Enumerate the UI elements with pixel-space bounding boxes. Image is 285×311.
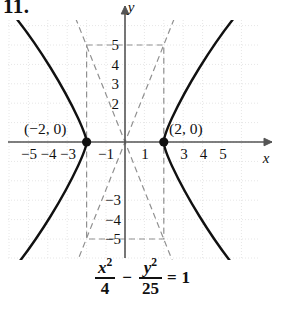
y-exponent: 2 bbox=[151, 256, 157, 269]
y-tick-label: −4 bbox=[105, 212, 121, 228]
y-term-denominator: 25 bbox=[139, 279, 162, 297]
right-vertex-label: (2, 0) bbox=[169, 120, 203, 138]
x-term-fraction: x2 4 bbox=[95, 259, 115, 298]
y-tick-label: 5 bbox=[112, 37, 120, 53]
x-tick-label: 5 bbox=[219, 146, 227, 162]
equation-row: x2 4 − y2 25 = 1 bbox=[95, 259, 190, 298]
y-tick-label: 2 bbox=[112, 96, 120, 112]
left-vertex-label: (−2, 0) bbox=[24, 120, 66, 138]
y-tick-label: 3 bbox=[112, 76, 120, 92]
x-tick-label: −4 bbox=[41, 146, 57, 162]
minus-operator: − bbox=[120, 268, 134, 288]
equals-sign: = bbox=[167, 268, 177, 288]
right-hand-side: 1 bbox=[182, 268, 191, 288]
y-term-fraction: y2 25 bbox=[139, 259, 162, 298]
x-axis-arrow bbox=[264, 138, 272, 146]
hyperbola-figure: 11. bbox=[0, 0, 285, 311]
x-term-denominator: 4 bbox=[98, 279, 113, 297]
y-tick-label: −5 bbox=[105, 231, 121, 247]
x-tick-label: −3 bbox=[60, 146, 76, 162]
x-term-numerator: x2 bbox=[95, 259, 115, 277]
x-axis-label: x bbox=[262, 150, 270, 166]
y-tick-label: 4 bbox=[112, 57, 120, 73]
x-tick-label: 4 bbox=[200, 146, 208, 162]
x-exponent: 2 bbox=[106, 256, 112, 269]
vertex-left-marker bbox=[82, 137, 91, 146]
y-axis-label: y bbox=[126, 0, 135, 15]
y-term-numerator: y2 bbox=[141, 259, 160, 277]
axis-names: x y bbox=[126, 0, 270, 166]
x-tick-label: −1 bbox=[98, 146, 114, 162]
y-tick-label: −3 bbox=[105, 192, 121, 208]
x-tick-label: 3 bbox=[180, 146, 188, 162]
equation: x2 4 − y2 25 = 1 bbox=[0, 258, 285, 298]
x-tick-labels: −5 −4 −3 −1 1 3 4 5 bbox=[21, 146, 227, 162]
x-tick-label: −5 bbox=[21, 146, 37, 162]
x-tick-label: 1 bbox=[141, 146, 149, 162]
vertex-right-marker bbox=[159, 137, 168, 146]
